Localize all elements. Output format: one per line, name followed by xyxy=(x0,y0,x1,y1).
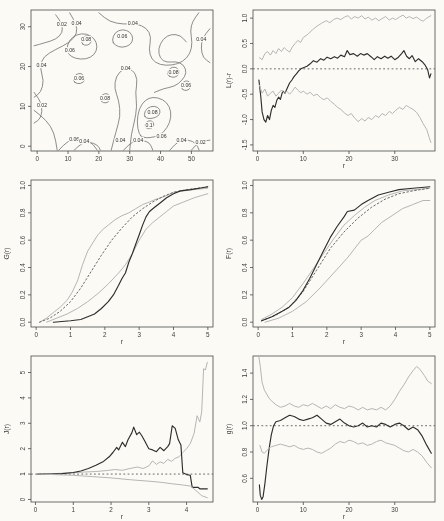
y-tick-label: 0.6 xyxy=(241,235,248,244)
plot-box xyxy=(253,10,435,151)
x-axis-label: r xyxy=(343,162,346,169)
x-tick-label: 0 xyxy=(256,506,260,513)
y-tick-label: 30 xyxy=(19,23,26,31)
y-tick-label: 0.4 xyxy=(19,263,26,272)
x-axis-label: r xyxy=(121,513,124,520)
y-axis: -1.5-1.0-0.50.00.51.0L(r)-r xyxy=(225,13,253,150)
contour-label: 0.1 xyxy=(146,122,153,128)
x-tick-label: 3 xyxy=(359,331,363,338)
x-tick-label: 0 xyxy=(35,155,39,162)
f-function-svg: 012345r0.00.20.40.60.81.0F(r) xyxy=(222,170,444,346)
x-axis: 012345r xyxy=(256,327,432,345)
contour-label: 0.04 xyxy=(196,36,206,42)
x-tick-label: 30 xyxy=(126,155,134,162)
contour-label: 0.04 xyxy=(36,62,46,68)
contour-label: 0.06 xyxy=(181,82,191,88)
upper-envelope-curve xyxy=(259,357,431,410)
contour-label: 0.04 xyxy=(72,20,82,26)
x-tick-label: 20 xyxy=(346,506,354,513)
x-tick-label: 40 xyxy=(157,155,165,162)
contour-label: 0.02 xyxy=(37,102,47,108)
y-axis: 012345J(r) xyxy=(3,370,31,501)
y-tick-label: 0.0 xyxy=(241,64,248,73)
y-axis: 0.60.81.01.21.4g(r) xyxy=(225,368,253,482)
x-tick-label: 30 xyxy=(391,506,399,513)
l-function-panel: 0102030r-1.5-1.0-0.50.00.51.0L(r)-r xyxy=(222,0,444,170)
y-tick-label: 0 xyxy=(19,497,26,501)
y-tick-label: 0.4 xyxy=(241,263,248,272)
y-tick-label: 20 xyxy=(19,63,26,71)
y-tick-label: 0.2 xyxy=(19,290,26,299)
contour-label: 0.04 xyxy=(79,138,89,144)
contour-label: 0.02 xyxy=(57,21,67,27)
y-tick-label: 0.8 xyxy=(19,208,26,217)
y-tick-label: 0.0 xyxy=(19,317,26,326)
contour-label: 0.06 xyxy=(74,75,84,81)
y-axis-label: G(r) xyxy=(3,247,11,259)
y-tick-label: 5 xyxy=(19,370,26,374)
y-axis: 0102030 xyxy=(19,23,31,148)
lower-envelope-curve xyxy=(265,201,430,323)
x-tick-label: 5 xyxy=(206,331,210,338)
x-tick-label: 50 xyxy=(188,155,196,162)
y-tick-label: 0.0 xyxy=(241,317,248,326)
y-tick-label: 1.0 xyxy=(241,13,248,22)
x-tick-label: 0 xyxy=(256,331,260,338)
observed-curve xyxy=(262,187,430,321)
x-tick-label: 3 xyxy=(137,331,141,338)
j-function-svg: 01234r012345J(r) xyxy=(0,346,222,521)
y-tick-label: 1 xyxy=(19,472,26,476)
contour-label: 0.06 xyxy=(69,136,79,142)
contour-label: 0.08 xyxy=(147,109,157,115)
x-tick-label: 3 xyxy=(147,506,151,513)
contour-line-0.04 xyxy=(201,29,209,63)
x-tick-label: 20 xyxy=(95,155,103,162)
y-tick-label: 0.6 xyxy=(19,235,26,244)
x-tick-label: 2 xyxy=(325,331,329,338)
x-tick-label: 10 xyxy=(300,506,308,513)
observed-curve xyxy=(259,415,431,499)
y-tick-label: 0.2 xyxy=(241,290,248,299)
x-tick-label: 4 xyxy=(394,331,398,338)
plot-area xyxy=(253,357,435,499)
y-tick-label: 0.5 xyxy=(241,39,248,48)
plot-box xyxy=(31,180,213,327)
plot-box xyxy=(31,10,213,151)
x-tick-label: 30 xyxy=(391,155,399,162)
y-tick-label: -1.0 xyxy=(241,114,248,125)
lower-envelope-curve xyxy=(37,474,207,498)
density-contour-svg: 0102030405001020300.020.040.040.040.040.… xyxy=(0,0,222,170)
contour-label: 0.04 xyxy=(128,20,138,26)
l-function-svg: 0102030r-1.5-1.0-0.50.00.51.0L(r)-r xyxy=(222,0,444,170)
y-tick-label: 10 xyxy=(19,102,26,110)
contour-line-0.04 xyxy=(34,13,77,97)
g-function-svg: 012345r0.00.20.40.60.81.0G(r) xyxy=(0,170,222,346)
x-tick-label: 0 xyxy=(34,331,38,338)
x-tick-label: 2 xyxy=(103,331,107,338)
x-axis: 01020304050 xyxy=(35,151,195,162)
y-tick-label: 0.8 xyxy=(241,447,248,456)
y-tick-label: -0.5 xyxy=(241,88,248,99)
x-tick-label: 1 xyxy=(291,331,295,338)
x-axis: 01234r xyxy=(34,502,189,520)
observed-curve xyxy=(259,51,431,123)
contour-label: 0.06 xyxy=(65,47,75,53)
g-function-panel: 012345r0.00.20.40.60.81.0G(r) xyxy=(0,170,222,346)
y-axis-label: L(r)-r xyxy=(225,72,233,88)
x-tick-label: 4 xyxy=(185,506,189,513)
x-tick-label: 0 xyxy=(256,155,260,162)
contour-label: 0.08 xyxy=(100,95,110,101)
y-tick-label: 1.4 xyxy=(241,368,248,377)
y-tick-label: 0 xyxy=(19,144,26,148)
y-tick-label: 0.8 xyxy=(241,208,248,217)
x-tick-label: 1 xyxy=(69,331,73,338)
y-tick-label: 1.0 xyxy=(19,181,26,190)
contour-label: 0.04 xyxy=(115,137,125,143)
contour-line-0.02 xyxy=(34,15,62,46)
x-axis-label: r xyxy=(343,513,346,520)
contour-label: 0.04 xyxy=(121,65,131,71)
y-tick-label: 3 xyxy=(19,421,26,425)
plot-area xyxy=(40,187,208,322)
x-tick-label: 5 xyxy=(428,331,432,338)
plot-box xyxy=(253,180,435,327)
